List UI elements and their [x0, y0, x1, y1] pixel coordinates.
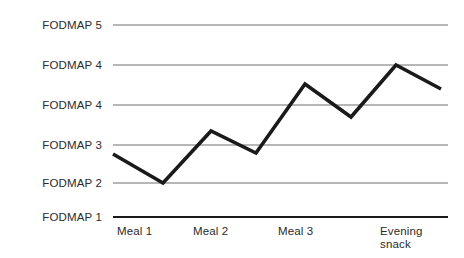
x-tick-label-evening-snack: Evening snack — [380, 225, 423, 250]
x-tick-label-meal-2: Meal 2 — [193, 225, 228, 238]
fodmap-line-chart: FODMAP 5 FODMAP 4 FODMAP 4 FODMAP 3 FODM… — [0, 0, 464, 258]
x-tick-label-meal-1: Meal 1 — [117, 225, 152, 238]
x-axis: Meal 1 Meal 2 Meal 3 Evening snack — [0, 0, 464, 258]
x-tick-label-meal-3: Meal 3 — [278, 225, 313, 238]
